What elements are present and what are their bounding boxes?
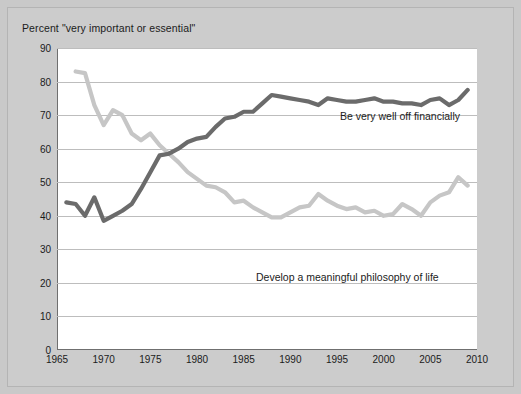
x-tick-2000: 2000 (373, 354, 395, 365)
y-tick-40: 40 (17, 210, 51, 221)
y-tick-50: 50 (17, 177, 51, 188)
y-axis-tick-labels: 0102030405060708090 (15, 48, 51, 350)
y-tick-20: 20 (17, 277, 51, 288)
x-tick-1990: 1990 (279, 354, 301, 365)
series-label-philosophy: Develop a meaningful philosophy of life (256, 271, 439, 283)
series-label-financial: Be very well off financially (340, 110, 460, 122)
y-tick-90: 90 (17, 43, 51, 54)
x-tick-1975: 1975 (139, 354, 161, 365)
x-tick-1970: 1970 (93, 354, 115, 365)
x-tick-2010: 2010 (466, 354, 488, 365)
chart-figure: Percent "very important or essential" 01… (0, 0, 521, 394)
x-tick-1965: 1965 (46, 354, 68, 365)
chart-title: Percent "very important or essential" (22, 22, 195, 34)
x-tick-1995: 1995 (326, 354, 348, 365)
y-tick-30: 30 (17, 244, 51, 255)
x-tick-1980: 1980 (186, 354, 208, 365)
x-tick-1985: 1985 (233, 354, 255, 365)
y-tick-80: 80 (17, 76, 51, 87)
plot-area: Be very well off financially Develop a m… (57, 48, 477, 350)
y-tick-60: 60 (17, 143, 51, 154)
y-tick-70: 70 (17, 110, 51, 121)
y-tick-10: 10 (17, 311, 51, 322)
series-lines (57, 48, 477, 350)
x-axis-tick-labels: 1965197019751980198519901995200020052010 (57, 352, 477, 372)
x-tick-2005: 2005 (419, 354, 441, 365)
